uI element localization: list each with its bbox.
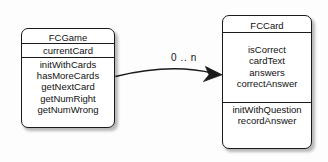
attribute-item: isCorrect [223,44,311,55]
operation-item: getNumWrong [22,104,114,115]
class-name-fcgame: FCGame [22,33,114,43]
class-box-fccard[interactable]: FCCard isCorrect cardText answers correc… [222,15,312,149]
uml-class-diagram: 0 .. n FCGame currentCard initWithCards … [0,0,328,162]
attributes-compartment-fcgame: currentCard [22,45,114,56]
attributes-compartment-fccard: isCorrect cardText answers correctAnswer [223,44,311,90]
operations-compartment-fcgame: initWithCards hasMoreCards getNextCard g… [22,59,114,116]
compartment-separator-attributes [223,32,311,33]
attribute-item: cardText [223,55,311,66]
class-name-fccard: FCCard [223,21,311,31]
association-arrowhead [204,67,223,82]
compartment-separator-operations [223,102,311,103]
operation-item: getNumRight [22,93,114,104]
association-line [116,69,215,77]
attribute-item: currentCard [22,45,114,56]
compartment-separator-attributes [22,43,114,44]
attribute-item: correctAnswer [223,78,311,89]
association-multiplicity-label: 0 .. n [171,52,197,63]
attribute-item: answers [223,67,311,78]
operation-item: getNextCard [22,81,114,92]
compartment-separator-operations [22,57,114,58]
operation-item: initWithQuestion [223,104,311,115]
operation-item: initWithCards [22,59,114,70]
operations-compartment-fccard: initWithQuestion recordAnswer [223,104,311,127]
operation-item: recordAnswer [223,115,311,126]
class-box-fcgame[interactable]: FCGame currentCard initWithCards hasMore… [21,28,115,128]
operation-item: hasMoreCards [22,70,114,81]
